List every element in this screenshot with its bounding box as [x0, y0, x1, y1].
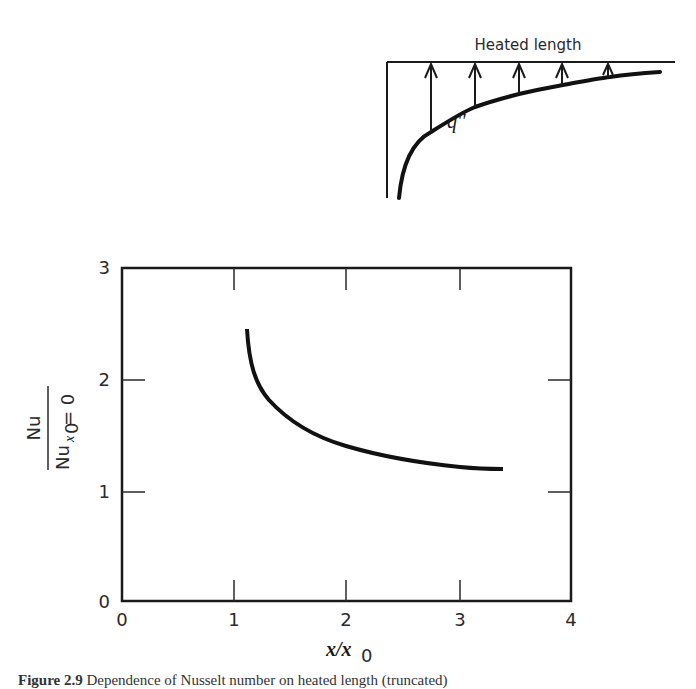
y-axis-denominator-cond: = 0 [57, 394, 78, 426]
caption-prefix: Figure 2.9 [18, 672, 83, 688]
inset-flux-label: q'' [447, 110, 466, 133]
y-tick-labels: 0 1 2 3 [99, 257, 110, 612]
y-tick-1: 1 [99, 481, 110, 502]
figure-caption: Figure 2.9 Dependence of Nusselt number … [18, 672, 448, 689]
y-axis-numerator: Nu [23, 416, 44, 441]
y-axis-label: Nu Nu x 0 = 0 [23, 386, 82, 470]
x-axis-label-sub: 0 [361, 645, 372, 666]
x-tick-0: 0 [116, 609, 127, 630]
x-tick-1: 1 [228, 609, 239, 630]
inset-diagram: Heated length q'' [387, 36, 675, 198]
y-tick-0: 0 [99, 591, 110, 612]
y-tick-3: 3 [99, 257, 110, 278]
nusselt-ratio-curve [247, 329, 503, 469]
caption-text: Dependence of Nusselt number on heated l… [83, 672, 448, 688]
y-axis-denominator: Nu [52, 445, 73, 470]
inset-title: Heated length [475, 36, 582, 54]
inset-flux-curve [399, 72, 660, 198]
y-tick-2: 2 [99, 369, 110, 390]
y-axis-denominator-sub: x [62, 435, 77, 443]
x-tick-marks [234, 268, 460, 601]
x-tick-2: 2 [340, 609, 351, 630]
x-tick-4: 4 [565, 609, 576, 630]
x-tick-labels: 0 1 2 3 4 [116, 609, 576, 630]
y-tick-marks [122, 380, 571, 492]
x-axis-label: x/x 0 [325, 638, 372, 666]
x-tick-3: 3 [454, 609, 465, 630]
x-axis-label-main: x/x [325, 638, 352, 660]
plot-frame [122, 268, 571, 601]
